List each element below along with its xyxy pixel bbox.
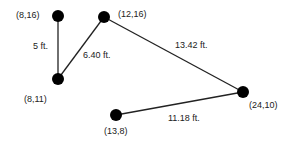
segment-13-8-to-24-10 [116,92,243,115]
diagram-canvas: (8,16) (12,16) (8,11) (24,10) (13,8) 5 f… [0,0,295,147]
segment-label-5ft: 5 ft. [33,42,48,51]
segment-8-11-to-12-16 [58,17,104,79]
point-label-13-8: (13,8) [104,127,128,136]
segment-label-6-40ft: 6.40 ft. [83,51,111,60]
segment-label-11-18ft: 11.18 ft. [168,114,200,123]
segment-label-13-42ft: 13.42 ft. [175,41,208,50]
point-13-8 [110,109,122,121]
point-label-12-16: (12,16) [118,10,147,19]
segment-12-16-to-24-10 [104,17,243,92]
point-label-8-11: (8,11) [24,95,47,104]
point-8-16 [52,10,64,22]
point-8-11 [52,73,64,85]
point-12-16 [98,11,110,23]
point-24-10 [237,86,249,98]
point-label-24-10: (24,10) [249,101,278,110]
diagram-graphics [0,0,295,147]
point-label-8-16: (8,16) [16,11,40,20]
